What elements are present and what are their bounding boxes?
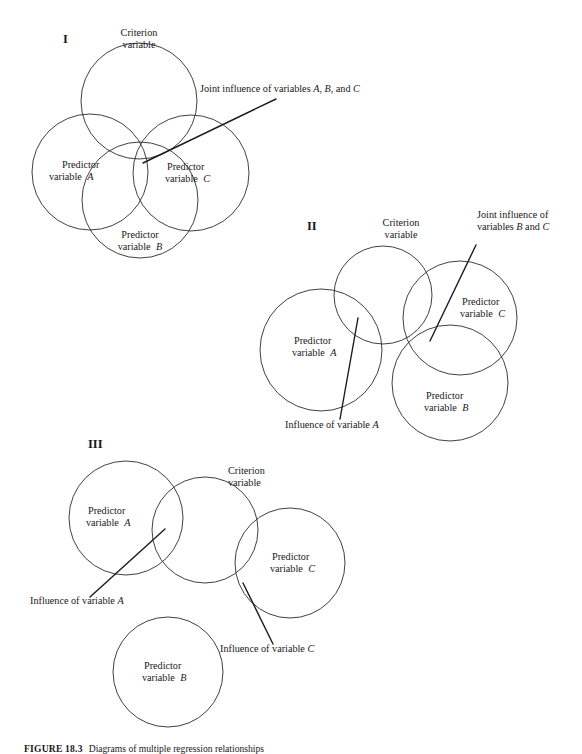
- panel-III: III Criterion variable Predictor variabl…: [30, 437, 345, 727]
- panel-I-joint-p3: , and: [331, 83, 353, 94]
- panel-II-predictor-b-label-line2: variable B: [424, 402, 469, 413]
- panel-I-criterion-label-line2: variable: [123, 39, 156, 50]
- panel-II-criterion-label-line2: variable: [385, 229, 418, 240]
- panel-I-predictor-c-letter: C: [203, 173, 210, 184]
- panel-III-predictor-a-word: variable: [86, 517, 119, 528]
- panel-III-predictor-a-label-line1: Predictor: [88, 505, 126, 516]
- panel-I-predictor-a-label-line2: variable A: [49, 171, 94, 182]
- panel-II-joint-p2: and: [523, 221, 543, 232]
- panel-II-joint-influence-label-line2: variables B and C: [477, 221, 549, 232]
- figure-caption-label: FIGURE 18.3: [24, 743, 83, 754]
- panel-II-joint-p1: variables: [477, 221, 516, 232]
- panel-II-predictor-c-label-line1: Predictor: [462, 296, 500, 307]
- panel-II-joint-influence-label-line1: Joint influence of: [477, 209, 549, 220]
- panel-II-predictor-a-label-line2: variable A: [292, 347, 337, 358]
- panel-II-predictor-c-letter: C: [498, 308, 505, 319]
- panel-II-predictor-a-label-line1: Predictor: [294, 335, 332, 346]
- panel-III-criterion-label-line2: variable: [228, 477, 261, 488]
- panel-I-joint-influence-label: Joint influence of variables A, B, and C: [200, 83, 360, 94]
- panel-II-predictor-b-label-line1: Predictor: [426, 390, 464, 401]
- panel-III-predictor-b-label-line1: Predictor: [144, 660, 182, 671]
- panel-I-predictor-c-label-line1: Predictor: [167, 161, 205, 172]
- panel-II-infl-a-i1: A: [371, 419, 379, 430]
- panel-numeral-III: III: [88, 437, 103, 451]
- figure-caption-text: FIGURE 18.3Diagrams of multiple regressi…: [24, 743, 264, 754]
- panel-III-infl-a-i1: A: [116, 595, 124, 606]
- panel-I-predictor-b-label-line1: Predictor: [121, 229, 159, 240]
- panel-II-criterion-label-line1: Criterion: [383, 217, 420, 228]
- panel-I-predictor-b-word: variable: [118, 241, 151, 252]
- panel-I-joint-p1: Joint influence of variables: [200, 83, 313, 94]
- panel-III-criterion-circle: [152, 477, 258, 583]
- panel-III-influence-c-label: Influence of variable C: [220, 643, 314, 654]
- panel-I-predictor-a-label-line1: Predictor: [62, 159, 100, 170]
- panel-II-predictor-b-word: variable: [424, 402, 457, 413]
- panel-numeral-I: I: [63, 32, 68, 46]
- panel-III-infl-c-i1: C: [307, 643, 314, 654]
- panel-I-predictor-a-word: variable: [49, 171, 82, 182]
- panel-II: II Criterion variable Predictor variable…: [260, 209, 549, 441]
- panel-II-predictor-c-label-line2: variable C: [460, 308, 505, 319]
- panel-I-predictor-a-letter: A: [86, 171, 94, 182]
- panel-III-criterion-label-line1: Criterion: [228, 465, 265, 476]
- panel-III-infl-a-p1: Influence of variable: [30, 595, 117, 606]
- panel-III-predictor-a-letter: A: [123, 517, 131, 528]
- figure-root: I Criterion variable Predictor variable …: [0, 0, 582, 754]
- panel-I-predictor-c-label-line2: variable C: [165, 173, 210, 184]
- panel-II-predictor-a-letter: A: [329, 347, 337, 358]
- panel-II-joint-i2: C: [542, 221, 549, 232]
- panel-III-predictor-c-letter: C: [308, 563, 315, 574]
- panel-I-predictor-b-label-line2: variable B: [118, 241, 163, 252]
- panel-III-predictor-b-word: variable: [142, 672, 175, 683]
- panel-III-predictor-a-label-line2: variable A: [86, 517, 131, 528]
- panel-I-joint-i3: C: [353, 83, 360, 94]
- panel-I-predictor-b-letter: B: [156, 241, 162, 252]
- panel-I-predictor-c-word: variable: [165, 173, 198, 184]
- panel-II-joint-influence-pointer: [430, 245, 476, 341]
- panel-II-influence-a-label: Influence of variable A: [285, 419, 379, 430]
- panel-II-predictor-a-word: variable: [292, 347, 325, 358]
- panel-III-predictor-b-letter: B: [180, 672, 186, 683]
- panel-II-criterion-circle: [334, 246, 432, 344]
- panel-III-infl-c-p1: Influence of variable: [220, 643, 307, 654]
- venn-diagram-figure: I Criterion variable Predictor variable …: [0, 0, 582, 754]
- panel-III-predictor-c-label-line1: Predictor: [272, 551, 310, 562]
- figure-caption-body: Diagrams of multiple regression relation…: [89, 743, 265, 754]
- panel-II-predictor-b-circle: [392, 325, 508, 441]
- panel-I-joint-influence-pointer: [143, 99, 276, 163]
- panel-numeral-II: II: [307, 219, 317, 233]
- panel-III-influence-a-label: Influence of variable A: [30, 595, 124, 606]
- panel-II-infl-a-p1: Influence of variable: [285, 419, 372, 430]
- panel-I-criterion-label-line1: Criterion: [121, 27, 158, 38]
- panel-III-predictor-c-word: variable: [270, 563, 303, 574]
- panel-III-influence-a-pointer: [90, 529, 165, 597]
- figure-caption: FIGURE 18.3Diagrams of multiple regressi…: [24, 743, 264, 754]
- panel-II-predictor-b-letter: B: [462, 402, 468, 413]
- panel-II-predictor-c-word: variable: [460, 308, 493, 319]
- panel-III-predictor-c-label-line2: variable C: [270, 563, 315, 574]
- panel-III-predictor-b-label-line2: variable B: [142, 672, 187, 683]
